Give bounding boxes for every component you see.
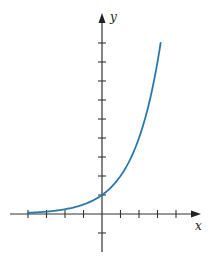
exponential-curve	[28, 43, 161, 213]
y-axis-label: y	[109, 10, 117, 24]
exponential-graph: x y	[0, 0, 213, 264]
x-axis-arrow-icon	[191, 211, 201, 218]
y-axis: y	[98, 10, 117, 252]
y-axis-arrow-icon	[99, 13, 106, 23]
x-axis-label: x	[195, 219, 202, 233]
x-axis: x	[10, 210, 202, 233]
